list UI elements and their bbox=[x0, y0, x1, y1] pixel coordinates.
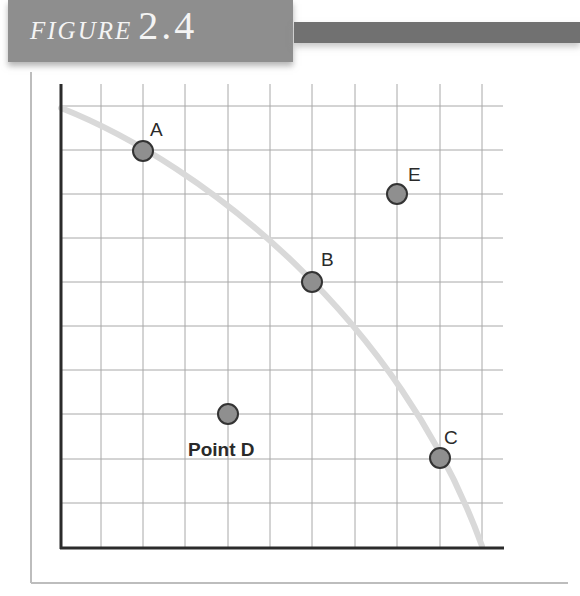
point-b-marker bbox=[302, 272, 322, 292]
point-e-marker bbox=[387, 184, 407, 204]
chart: A B C Point D E bbox=[0, 0, 580, 596]
outer-frame bbox=[31, 72, 568, 583]
point-c-label: C bbox=[444, 427, 458, 448]
point-a-marker bbox=[133, 141, 153, 161]
point-d-label: Point D bbox=[188, 439, 255, 460]
point-c-marker bbox=[430, 448, 450, 468]
data-points bbox=[133, 141, 450, 468]
point-a-label: A bbox=[150, 119, 163, 140]
axes bbox=[60, 84, 504, 549]
point-d-marker bbox=[218, 404, 238, 424]
point-e-label: E bbox=[408, 164, 421, 185]
point-b-label: B bbox=[321, 249, 334, 270]
grid bbox=[61, 84, 503, 548]
